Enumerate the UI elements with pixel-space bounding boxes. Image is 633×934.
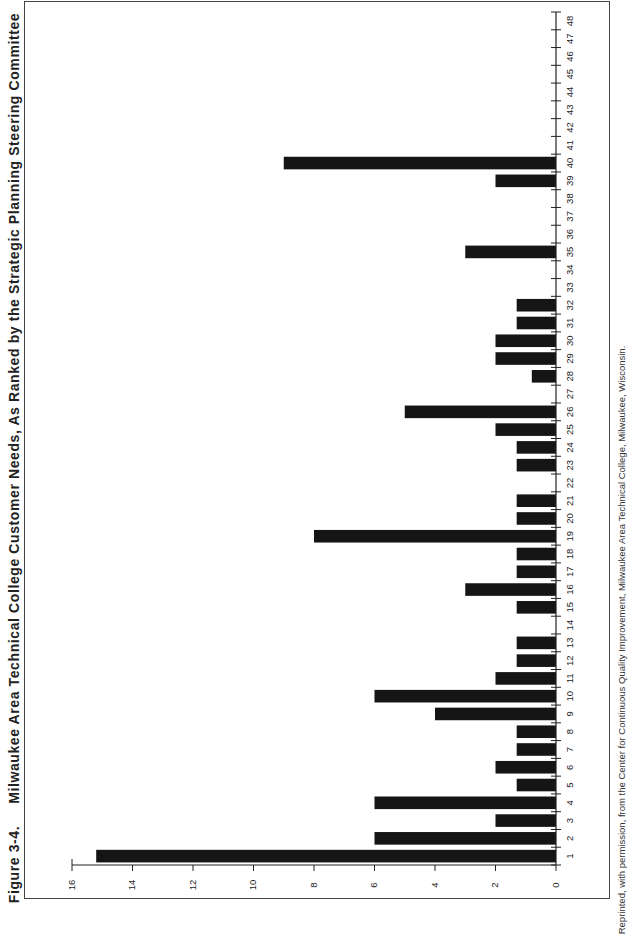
- category-label: 11: [564, 673, 575, 683]
- bar-5: [517, 779, 556, 792]
- bar-11: [496, 672, 557, 685]
- value-label: 4: [429, 882, 440, 887]
- bar-35: [465, 246, 556, 259]
- category-label: 30: [564, 335, 575, 346]
- category-label: 2: [564, 836, 575, 841]
- category-label: 43: [564, 104, 575, 115]
- category-label: 29: [564, 353, 575, 364]
- category-label: 14: [564, 620, 575, 631]
- category-label: 9: [564, 711, 575, 716]
- bar-12: [517, 654, 556, 667]
- value-label: 10: [247, 880, 258, 891]
- category-label: 40: [564, 158, 575, 169]
- bar-23: [517, 459, 556, 472]
- category-label: 26: [564, 407, 575, 418]
- category-label: 36: [564, 229, 575, 240]
- category-label: 42: [564, 122, 575, 133]
- category-label: 12: [564, 655, 575, 666]
- bar-8: [517, 725, 556, 738]
- bar-31: [517, 317, 556, 330]
- bar-9: [435, 708, 556, 721]
- bar-30: [496, 334, 557, 347]
- category-label: 34: [564, 264, 575, 275]
- category-label: 24: [564, 442, 575, 453]
- bar-18: [517, 548, 556, 561]
- bar-28: [532, 370, 556, 383]
- category-label: 20: [564, 513, 575, 524]
- value-label: 12: [187, 880, 198, 891]
- category-label: 27: [564, 389, 575, 400]
- category-label: 17: [564, 566, 575, 577]
- bar-29: [496, 352, 557, 365]
- category-label: 4: [564, 800, 575, 805]
- category-label: 39: [564, 176, 575, 187]
- category-label: 3: [564, 818, 575, 823]
- category-label: 45: [564, 69, 575, 80]
- category-label: 5: [564, 782, 575, 787]
- bar-40: [284, 157, 556, 170]
- category-label: 47: [564, 33, 575, 44]
- bar-24: [517, 441, 556, 454]
- bar-39: [496, 175, 557, 188]
- bar-19: [314, 530, 556, 543]
- bar-7: [517, 743, 556, 756]
- bar-10: [375, 690, 557, 703]
- value-label: 8: [308, 882, 319, 887]
- bar-32: [517, 299, 556, 312]
- category-label: 46: [564, 51, 575, 62]
- category-label: 44: [564, 87, 575, 98]
- category-label: 15: [564, 602, 575, 613]
- category-label: 25: [564, 424, 575, 435]
- category-label: 19: [564, 531, 575, 542]
- category-label: 10: [564, 691, 575, 702]
- value-label: 14: [126, 880, 137, 891]
- value-label: 2: [489, 882, 500, 887]
- category-label: 41: [564, 140, 575, 151]
- value-label: 0: [550, 882, 561, 887]
- value-label: 6: [368, 882, 379, 887]
- bar-21: [517, 494, 556, 507]
- category-label: 48: [564, 16, 575, 27]
- category-label: 37: [564, 211, 575, 222]
- bar-4: [375, 797, 557, 810]
- category-label: 16: [564, 584, 575, 595]
- category-label: 8: [564, 729, 575, 734]
- bar-17: [517, 565, 556, 578]
- value-label: 16: [66, 880, 77, 891]
- category-label: 33: [564, 282, 575, 293]
- category-label: 21: [564, 495, 575, 506]
- bar-20: [517, 512, 556, 525]
- category-label: 28: [564, 371, 575, 382]
- bar-26: [405, 406, 556, 419]
- category-label: 1: [564, 853, 575, 858]
- category-label: 35: [564, 247, 575, 258]
- bar-1: [96, 850, 556, 863]
- bar-2: [375, 832, 557, 845]
- category-label: 38: [564, 193, 575, 204]
- bar-13: [517, 637, 556, 650]
- credit-note: Reprinted, with permission, from the Cen…: [616, 346, 627, 934]
- bar-15: [517, 601, 556, 614]
- category-label: 23: [564, 460, 575, 471]
- category-label: 7: [564, 747, 575, 752]
- category-label: 6: [564, 765, 575, 770]
- category-label: 22: [564, 478, 575, 489]
- bar-6: [496, 761, 557, 774]
- category-label: 32: [564, 300, 575, 311]
- bar-25: [496, 423, 557, 436]
- category-label: 13: [564, 638, 575, 649]
- bar-3: [496, 814, 557, 827]
- category-label: 18: [564, 549, 575, 560]
- category-label: 31: [564, 318, 575, 329]
- bar-16: [465, 583, 556, 596]
